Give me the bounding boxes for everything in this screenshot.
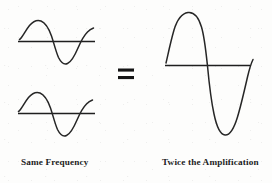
left-top-sine-curve — [20, 21, 94, 64]
equals-sign — [118, 69, 134, 80]
right-wave-panel — [165, 12, 253, 135]
left-bottom-wave-panel — [18, 93, 95, 136]
figure-canvas — [0, 0, 272, 183]
left-top-wave-panel — [18, 21, 95, 64]
caption-same-frequency: Same Frequency — [21, 157, 89, 168]
caption-twice-the-amplification: Twice the Amplification — [162, 157, 259, 168]
waveform-amplification-figure: Same Frequency Twice the Amplification — [0, 0, 272, 183]
left-bottom-sine-curve — [19, 93, 93, 136]
equals-bar-bottom — [118, 76, 134, 79]
equals-bar-top — [118, 69, 134, 72]
right-sine-curve — [166, 12, 253, 135]
